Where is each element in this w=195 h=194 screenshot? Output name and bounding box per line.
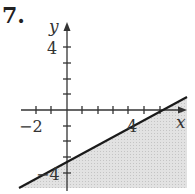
y-tick-label-neg4: −4 — [36, 165, 60, 184]
inequality-graph: y 4 −2 4 x −4 — [0, 0, 195, 194]
x-tick-label-neg2: −2 — [19, 117, 43, 136]
x-tick-label-4: 4 — [127, 117, 137, 136]
x-axis-label: x — [176, 112, 186, 132]
y-axis-label: y — [48, 16, 59, 36]
y-axis-arrow-icon — [64, 22, 71, 31]
y-tick-label-4: 4 — [47, 39, 57, 58]
